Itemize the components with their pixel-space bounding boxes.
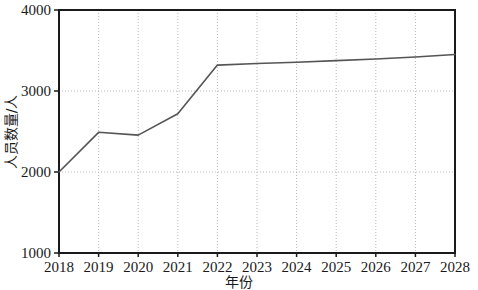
x-tick-label: 2019 xyxy=(84,259,114,275)
x-tick-label: 2026 xyxy=(361,259,392,275)
y-tick-label: 4000 xyxy=(21,2,51,18)
line-chart: 1000200030004000 20182019202020212022202… xyxy=(0,0,478,290)
x-tick-label: 2024 xyxy=(282,259,313,275)
x-tick-label: 2027 xyxy=(400,259,431,275)
chart-background xyxy=(0,0,478,290)
x-tick-label: 2025 xyxy=(321,259,351,275)
y-axis-title: 人员数量/人 xyxy=(3,95,19,170)
x-axis-title: 年份 xyxy=(225,274,253,290)
y-tick-label: 3000 xyxy=(21,83,51,99)
x-tick-label: 2018 xyxy=(44,259,74,275)
x-tick-label: 2021 xyxy=(163,259,193,275)
y-tick-label: 2000 xyxy=(21,164,51,180)
x-tick-label: 2023 xyxy=(242,259,272,275)
x-tick-label: 2028 xyxy=(440,259,470,275)
x-tick-label: 2022 xyxy=(202,259,232,275)
chart-canvas: 1000200030004000 20182019202020212022202… xyxy=(0,0,478,290)
x-tick-label: 2020 xyxy=(123,259,153,275)
